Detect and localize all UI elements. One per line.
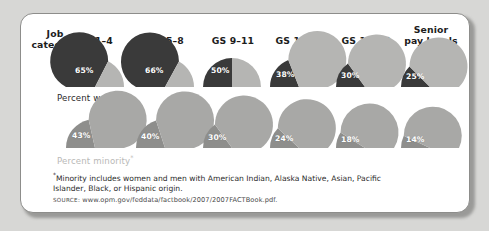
gauge-minority-gs-12-13: 24%	[270, 119, 328, 148]
gauge-minority-gs-5-8: 40%	[136, 119, 194, 148]
source-label: SOURCE:	[53, 197, 80, 203]
column-header-gs-9-11: GS 9–11	[198, 35, 268, 46]
gauge-arcs	[203, 58, 261, 87]
gauge-minority-gs-14-15: 18%	[336, 119, 394, 148]
footnote-marker-icon: *	[130, 154, 133, 162]
gauge-women-gs-1-4: 65%	[66, 58, 124, 87]
gauge-women-gs-12-13: 38%	[270, 58, 328, 87]
gauge-women-gs-14-15: 30%	[336, 58, 394, 87]
gauge-women-gs-5-8: 66%	[136, 58, 194, 87]
percent-minority-caption: Percent minority*	[57, 154, 134, 166]
gauge-women-gs-9-11: 50%	[203, 58, 261, 87]
gauge-minority-gs-1-4: 43%	[66, 119, 124, 148]
gauge-women-senior-pay-levels: 25%	[401, 58, 459, 87]
gauge-minority-senior-pay-levels: 14%	[401, 119, 459, 148]
figure-panel: Job category GS 1–4 GS 5–8 GS 9–11 GS 12…	[0, 0, 489, 231]
footnote-text: Minority includes women and men with Ame…	[53, 174, 381, 194]
footnote: *Minority includes women and men with Am…	[53, 170, 383, 195]
gauge-minority-gs-9-11: 30%	[203, 119, 261, 148]
percent-minority-caption-text: Percent minority	[57, 156, 130, 166]
source-line: SOURCE: www.opm.gov/feddata/factbook/200…	[53, 196, 403, 204]
source-url: www.opm.gov/feddata/factbook/2007/2007FA…	[82, 196, 277, 204]
